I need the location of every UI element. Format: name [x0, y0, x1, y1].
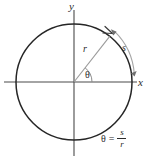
angle-label: θ: [85, 70, 90, 80]
formula-equals-sign: =: [109, 133, 115, 144]
formula-lhs: θ: [101, 133, 106, 144]
x-axis-label: x: [138, 77, 143, 88]
y-axis-label: y: [69, 1, 74, 12]
radius-segment: [74, 36, 110, 82]
radian-measure-figure: y x r s θ θ = s r: [0, 0, 149, 162]
formula-numerator: s: [118, 128, 126, 138]
arc-length-label: s: [122, 43, 126, 53]
figure-canvas: [0, 0, 149, 162]
formula-fraction: s r: [117, 128, 126, 149]
radius-label: r: [83, 44, 87, 54]
formula-theta-equals-s-over-r: θ = s r: [101, 128, 126, 149]
formula-denominator: r: [118, 139, 126, 149]
